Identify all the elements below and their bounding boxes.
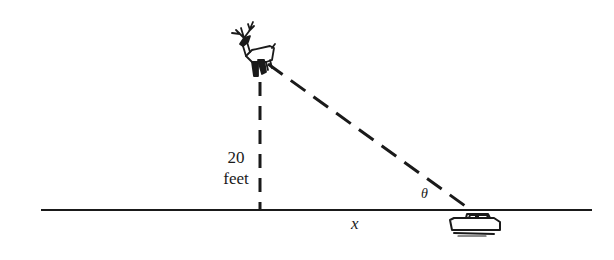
height-label: 20 feet xyxy=(214,147,258,189)
car-icon xyxy=(450,214,500,236)
height-value: 20 xyxy=(214,147,258,168)
right-triangle-diagram xyxy=(0,0,614,260)
horizontal-distance-label: x xyxy=(351,214,359,234)
deer-icon xyxy=(232,22,275,76)
height-unit: feet xyxy=(214,168,258,189)
line-of-sight-dashed xyxy=(268,64,468,208)
angle-label: θ xyxy=(421,186,428,202)
